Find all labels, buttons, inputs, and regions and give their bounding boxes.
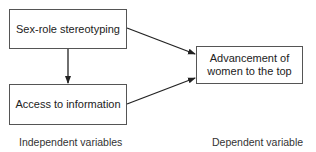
node-label: Advancement of women to the top	[205, 52, 294, 78]
arrow-access-to-advancement	[127, 78, 195, 104]
node-sex-role-stereotyping: Sex-role stereotyping	[9, 9, 127, 49]
node-label: Access to information	[15, 98, 120, 111]
arrow-sexrole-to-advancement	[127, 28, 195, 54]
dependent-variable-label: Dependent variable	[212, 136, 303, 148]
independent-variables-label: Independent variables	[19, 136, 122, 148]
node-advancement-of-women: Advancement of women to the top	[196, 46, 303, 84]
node-access-to-information: Access to information	[9, 84, 127, 125]
node-label: Sex-role stereotyping	[16, 23, 120, 36]
